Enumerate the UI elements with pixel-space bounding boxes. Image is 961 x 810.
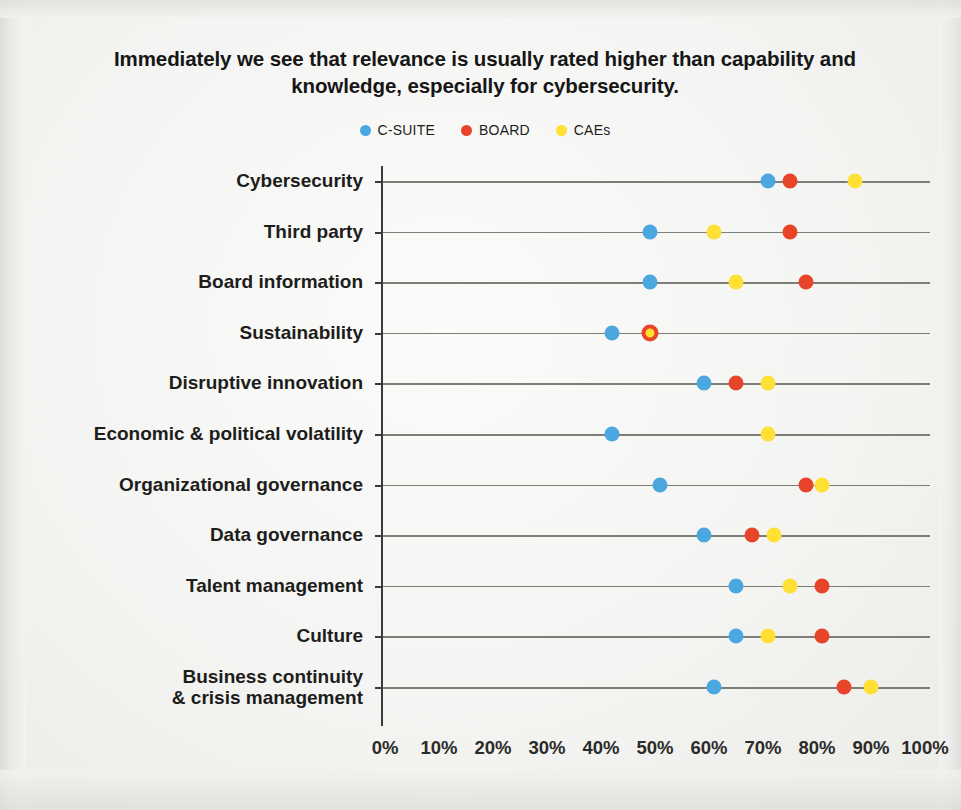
category-label: Business continuity & crisis management [172, 666, 363, 709]
data-point-caes [761, 427, 776, 442]
x-axis-tick-label: 40% [582, 737, 619, 759]
y-axis-tick [375, 687, 382, 689]
data-point-caes [761, 376, 776, 391]
data-point-board [799, 477, 814, 492]
data-point-board [729, 376, 744, 391]
data-point-caes [761, 629, 776, 644]
data-point-caes [815, 477, 830, 492]
data-point-board [815, 578, 830, 593]
y-axis-tick [375, 282, 382, 284]
data-point-overlap-board-caes [641, 324, 658, 341]
x-axis-tick-label: 70% [744, 737, 781, 759]
category-label: Disruptive innovation [169, 373, 363, 394]
data-point-board [837, 680, 852, 695]
data-point-board [815, 629, 830, 644]
x-axis-tick-label: 50% [636, 737, 673, 759]
x-axis-tick-label: 90% [852, 737, 889, 759]
y-axis-tick [375, 181, 382, 183]
data-point-caes [847, 174, 862, 189]
y-axis-line [381, 166, 383, 726]
data-point-board [799, 275, 814, 290]
category-axis-labels: CybersecurityThird partyBoard informatio… [0, 0, 371, 810]
data-point-board [745, 528, 760, 543]
category-label: Board information [198, 272, 363, 293]
category-label: Data governance [210, 525, 363, 546]
x-axis-tick-label: 80% [798, 737, 835, 759]
y-axis-tick [375, 434, 382, 436]
x-axis-tick-label: 10% [420, 737, 457, 759]
x-axis-tick-label: 100% [901, 737, 948, 759]
y-axis-tick [375, 383, 382, 385]
category-label: Sustainability [239, 322, 363, 343]
x-axis-tick-label: 20% [474, 737, 511, 759]
data-point-caes [766, 528, 781, 543]
data-point-caes [864, 680, 879, 695]
data-point-c-suite [653, 477, 668, 492]
row-baseline [383, 434, 930, 436]
data-point-c-suite [696, 528, 711, 543]
row-baseline [383, 383, 930, 385]
data-point-caes [783, 578, 798, 593]
category-label: Talent management [186, 575, 363, 596]
category-label: Culture [297, 626, 364, 647]
data-point-c-suite [604, 325, 619, 340]
data-point-board [783, 174, 798, 189]
row-baseline [383, 636, 930, 638]
data-point-caes [707, 224, 722, 239]
chart-plot-area: CybersecurityThird partyBoard informatio… [0, 0, 961, 810]
data-point-c-suite [604, 427, 619, 442]
x-axis-tick-label: 30% [528, 737, 565, 759]
row-baseline [383, 586, 930, 588]
x-axis-tick-label: 60% [690, 737, 727, 759]
y-axis-tick [375, 636, 382, 638]
data-point-caes [729, 275, 744, 290]
data-point-board [783, 224, 798, 239]
data-point-c-suite [729, 629, 744, 644]
x-axis-tick-label: 0% [372, 737, 399, 759]
data-point-c-suite [642, 224, 657, 239]
category-label: Economic & political volatility [94, 423, 363, 444]
x-axis-tick-labels: 0%10%20%30%40%50%60%70%80%90%100% [0, 737, 961, 767]
y-axis-tick [375, 232, 382, 234]
row-baseline [383, 535, 930, 537]
category-label: Cybersecurity [236, 170, 363, 191]
category-label: Organizational governance [119, 474, 363, 495]
data-point-c-suite [729, 578, 744, 593]
data-point-c-suite [642, 275, 657, 290]
data-point-c-suite [761, 174, 776, 189]
y-axis-tick [375, 535, 382, 537]
y-axis-tick [375, 485, 382, 487]
data-point-c-suite [696, 376, 711, 391]
y-axis-tick [375, 586, 382, 588]
category-label: Third party [264, 221, 363, 242]
data-point-c-suite [707, 680, 722, 695]
y-axis-tick [375, 333, 382, 335]
